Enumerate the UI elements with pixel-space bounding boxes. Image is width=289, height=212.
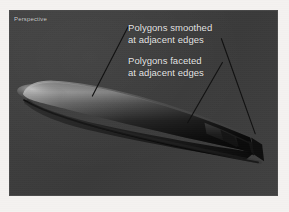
screenshot-root: Perspective Polygons smoothed at adjacen… <box>0 0 289 212</box>
model-hull <box>16 82 264 163</box>
smoothed-leader-line <box>92 27 128 96</box>
annotation-polygons-smoothed: Polygons smoothed at adjacent edges <box>128 22 212 45</box>
perspective-viewport[interactable]: Perspective Polygons smoothed at adjacen… <box>9 10 278 196</box>
viewport-label: Perspective <box>14 15 47 23</box>
annotation-polygons-faceted: Polygons faceted at adjacent edges <box>128 55 204 78</box>
faceted-leader-right-line <box>221 39 255 134</box>
